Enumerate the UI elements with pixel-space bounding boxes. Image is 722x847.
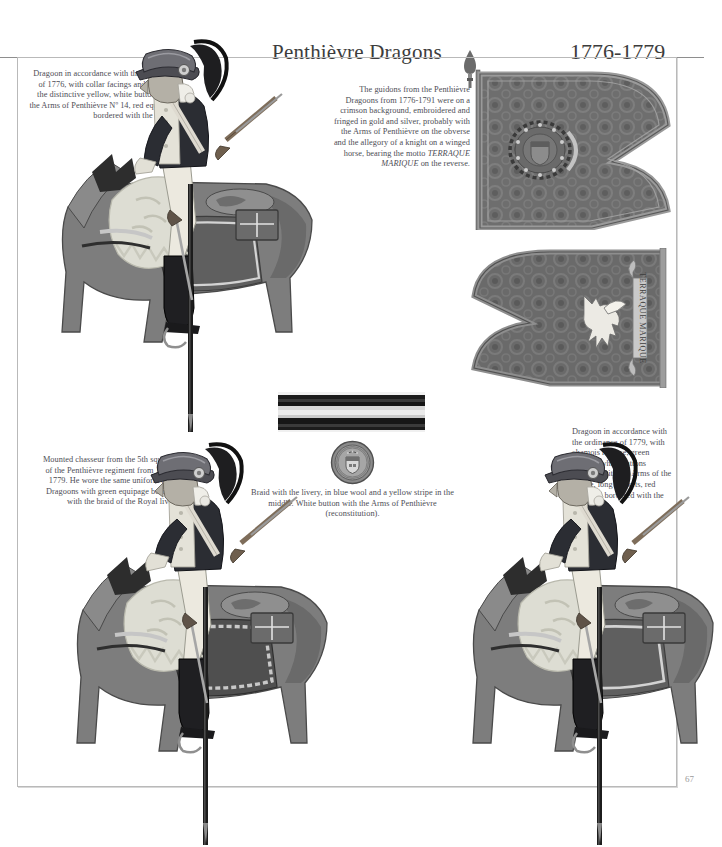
mounted-dragoon-1779 [455, 425, 715, 845]
caption-guidons: The guidons from the Penthièvre Dragoons… [330, 85, 470, 170]
page-number: 67 [685, 774, 694, 784]
caption-guidons-body: The guidons from the Penthièvre Dragoons… [334, 85, 470, 158]
guidon-motto-text: TERRAQUE MARIQUE [638, 272, 647, 364]
guidon-reverse-winged-horse: TERRAQUE MARIQUE [462, 248, 680, 388]
guidon-obverse-arms-of-penthievre [462, 50, 680, 230]
mounted-dragoon-1776 [40, 32, 330, 432]
mounted-chasseur-5th-squadron [55, 425, 345, 845]
